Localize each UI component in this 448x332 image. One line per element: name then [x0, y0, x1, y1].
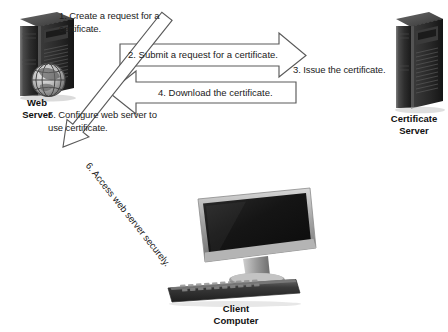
step-5-text: 5. Configure web server to use certifica… [48, 109, 208, 134]
step-4-label: 4. Download the certificate. [158, 87, 273, 98]
certificate-server-icon [395, 12, 445, 113]
step-1-text: 1. Create a request for a certificate. [59, 10, 209, 35]
client-computer-icon [168, 188, 316, 307]
web-server-label: Web Server [8, 97, 66, 120]
step-2-label: 2. Submit a request for a certificate. [128, 49, 278, 60]
client-computer-label: Client Computer [200, 303, 272, 326]
certificate-enrollment-diagram: 1. Create a request for a certificate. 2… [0, 0, 448, 332]
globe-icon [32, 64, 65, 97]
certificate-server-label: Certificate Server [382, 113, 446, 136]
step-3-text: 3. Issue the certificate. [293, 64, 408, 77]
